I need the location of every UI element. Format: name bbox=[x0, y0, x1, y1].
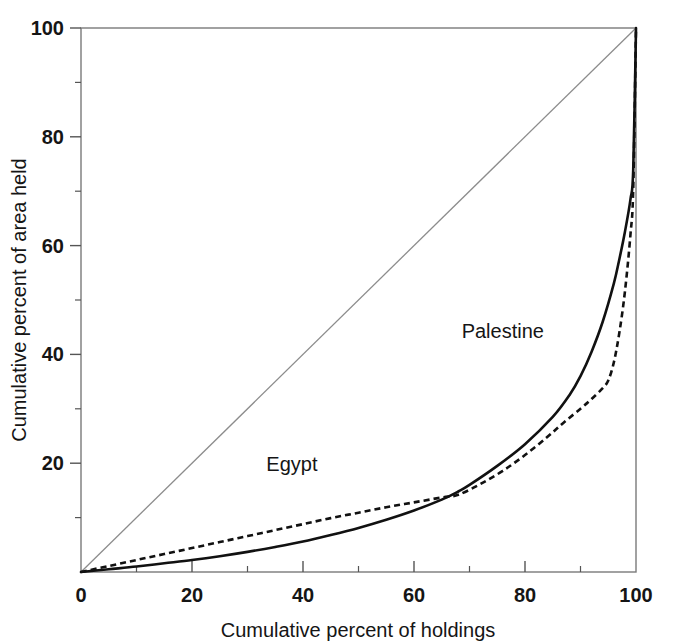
lorenz-curve-chart: 020406080100 20406080100 Palestine Egypt… bbox=[0, 0, 673, 644]
y-axis-ticks bbox=[70, 28, 81, 518]
y-tick-label: 80 bbox=[42, 126, 64, 148]
y-axis-title: Cumulative percent of area held bbox=[8, 158, 30, 442]
y-axis-tick-labels: 20406080100 bbox=[31, 17, 64, 474]
y-tick-label: 100 bbox=[31, 17, 64, 39]
x-tick-label: 20 bbox=[181, 584, 203, 606]
x-axis-ticks bbox=[137, 561, 581, 572]
x-axis-tick-labels: 020406080100 bbox=[75, 584, 652, 606]
y-tick-label: 40 bbox=[42, 343, 64, 365]
line-of-equality bbox=[81, 28, 636, 572]
x-tick-label: 60 bbox=[403, 584, 425, 606]
x-tick-label: 80 bbox=[514, 584, 536, 606]
x-tick-label: 100 bbox=[619, 584, 652, 606]
x-tick-label: 40 bbox=[292, 584, 314, 606]
x-tick-label: 0 bbox=[75, 584, 86, 606]
series-label-egypt: Egypt bbox=[266, 453, 318, 475]
y-tick-label: 20 bbox=[42, 452, 64, 474]
x-axis-title: Cumulative percent of holdings bbox=[221, 619, 496, 641]
y-tick-label: 60 bbox=[42, 235, 64, 257]
chart-canvas: 020406080100 20406080100 Palestine Egypt… bbox=[0, 0, 673, 644]
series-label-palestine: Palestine bbox=[462, 320, 544, 342]
